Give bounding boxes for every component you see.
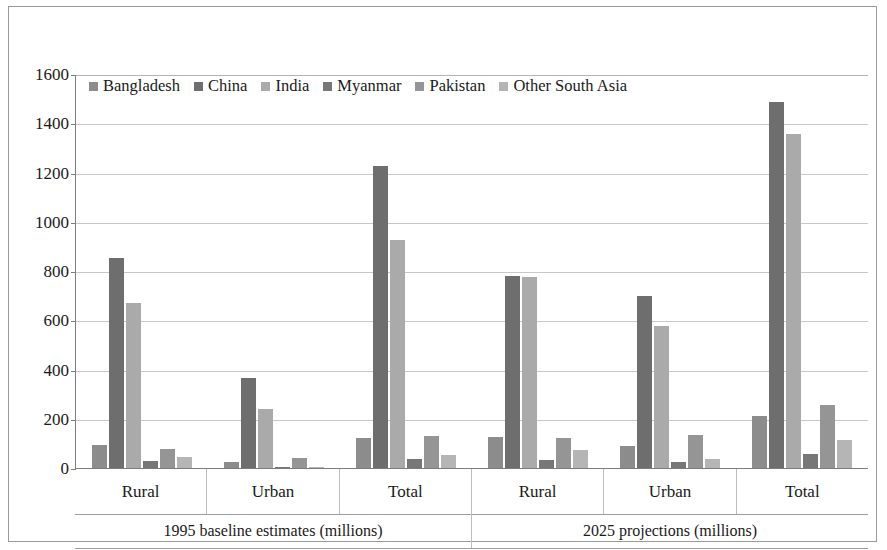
legend-item[interactable]: India	[261, 78, 309, 95]
bar	[241, 378, 256, 468]
legend-item[interactable]: Myanmar	[323, 78, 401, 95]
legend-swatch-icon	[261, 82, 270, 91]
y-axis-tick-label: 600	[17, 312, 69, 329]
bar	[820, 405, 835, 468]
period-label: 2025 projections (millions)	[472, 514, 868, 548]
bar	[424, 436, 439, 468]
period-label: 1995 baseline estimates (millions)	[75, 514, 472, 548]
bar	[160, 449, 175, 468]
bar	[356, 438, 371, 468]
bar	[837, 440, 852, 468]
legend-label: Other South Asia	[513, 78, 627, 95]
bar-group	[472, 75, 604, 468]
bar	[177, 457, 192, 468]
bar	[539, 460, 554, 468]
bar	[786, 134, 801, 468]
legend-swatch-icon	[415, 82, 424, 91]
bar	[143, 461, 158, 468]
legend-label: India	[275, 78, 309, 95]
y-axis-tick-label: 400	[17, 362, 69, 379]
legend-label: China	[208, 78, 247, 95]
bar-group	[76, 75, 208, 468]
period-axis-row: 1995 baseline estimates (millions)2025 p…	[75, 514, 868, 548]
y-axis-tick-label: 1600	[17, 66, 69, 83]
category-label: Urban	[604, 469, 736, 514]
bar	[556, 438, 571, 468]
bar	[309, 467, 324, 468]
bar	[407, 459, 422, 468]
bar-group	[736, 75, 868, 468]
y-axis-tick-label: 1000	[17, 214, 69, 231]
bar-group	[208, 75, 340, 468]
bar	[92, 445, 107, 468]
bar	[688, 435, 703, 468]
bar	[275, 467, 290, 468]
legend-item[interactable]: Pakistan	[415, 78, 485, 95]
legend-label: Myanmar	[337, 78, 401, 95]
axis-bottom-divider	[75, 548, 868, 549]
legend-swatch-icon	[89, 82, 98, 91]
bar	[705, 459, 720, 468]
bar	[752, 416, 767, 468]
bar-group	[340, 75, 472, 468]
category-axis-row: RuralUrbanTotalRuralUrbanTotal	[75, 469, 868, 514]
plot-area	[75, 75, 868, 469]
y-axis-tick-label: 800	[17, 263, 69, 280]
bar	[373, 166, 388, 468]
y-axis-tick-labels: 16001400120010008006004002000	[17, 75, 69, 469]
bar	[620, 446, 635, 468]
bar	[292, 458, 307, 468]
bar	[126, 303, 141, 468]
y-axis-tick-label: 0	[17, 460, 69, 477]
legend-item[interactable]: China	[194, 78, 247, 95]
bar	[522, 277, 537, 468]
bar-groups	[76, 75, 868, 468]
legend-swatch-icon	[499, 82, 508, 91]
legend-swatch-icon	[194, 82, 203, 91]
bar	[109, 258, 124, 468]
legend-label: Bangladesh	[103, 78, 180, 95]
bar	[224, 462, 239, 468]
bar	[488, 437, 503, 468]
chart-frame: 16001400120010008006004002000 Bangladesh…	[8, 6, 877, 542]
legend-item[interactable]: Other South Asia	[499, 78, 627, 95]
category-label: Total	[737, 469, 868, 514]
y-axis-tick-label: 1200	[17, 165, 69, 182]
category-label: Urban	[207, 469, 339, 514]
y-axis-tick-label: 1400	[17, 115, 69, 132]
bar	[390, 240, 405, 468]
category-label: Total	[340, 469, 472, 514]
bar	[441, 455, 456, 468]
legend-item[interactable]: Bangladesh	[89, 78, 180, 95]
category-label: Rural	[75, 469, 207, 514]
y-axis-tick-label: 200	[17, 411, 69, 428]
legend-label: Pakistan	[429, 78, 485, 95]
bar	[637, 296, 652, 468]
bar-group	[604, 75, 736, 468]
legend-swatch-icon	[323, 82, 332, 91]
bar	[671, 462, 686, 468]
bar	[654, 326, 669, 468]
bar	[505, 276, 520, 468]
chart-legend: BangladeshChinaIndiaMyanmarPakistanOther…	[89, 78, 627, 95]
bar	[258, 409, 273, 468]
bar	[803, 454, 818, 468]
bar	[573, 450, 588, 468]
bar	[769, 102, 784, 468]
category-label: Rural	[472, 469, 604, 514]
